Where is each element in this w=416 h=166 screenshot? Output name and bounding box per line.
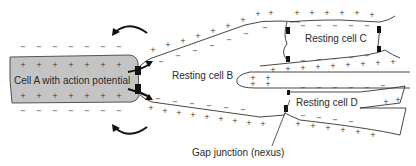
svg-text:−: − — [155, 95, 161, 103]
svg-text:−: − — [84, 107, 90, 115]
svg-text:+: + — [370, 131, 376, 139]
svg-text:−: − — [116, 43, 122, 51]
gap-junction-c-right-top — [377, 26, 381, 33]
svg-text:+: + — [310, 122, 316, 130]
svg-text:−: − — [348, 118, 354, 126]
svg-text:+: + — [52, 92, 58, 100]
svg-text:+: + — [369, 11, 375, 19]
svg-text:−: − — [52, 107, 58, 115]
gap-junction-leader-line — [272, 100, 290, 146]
svg-text:+: + — [270, 66, 276, 74]
svg-text:−: − — [364, 22, 370, 30]
svg-text:−: − — [116, 107, 122, 115]
svg-text:−: − — [243, 30, 249, 38]
svg-text:−: − — [316, 84, 322, 92]
svg-text:+: + — [68, 92, 74, 100]
gap-junction-c-right-bottom — [377, 46, 381, 52]
svg-text:+: + — [390, 58, 396, 66]
gap-junction-b-c-bottom — [286, 56, 290, 62]
svg-text:−: − — [380, 82, 386, 90]
svg-text:−: − — [158, 58, 164, 66]
gap-junction-d-top — [287, 90, 290, 95]
svg-text:−: − — [100, 107, 106, 115]
svg-text:+: + — [354, 9, 360, 17]
svg-text:+: + — [295, 120, 301, 128]
svg-text:−: − — [332, 84, 338, 92]
svg-text:−: − — [20, 43, 26, 51]
svg-text:−: − — [226, 36, 232, 44]
svg-text:−: − — [316, 22, 322, 30]
cell-d-charges: −−−−−− −−−− ++++++ ++ — [295, 82, 401, 139]
svg-text:+: + — [180, 37, 186, 45]
svg-text:+: + — [340, 126, 346, 134]
svg-text:−: − — [68, 43, 74, 51]
svg-text:−: − — [300, 22, 306, 30]
svg-text:+: + — [204, 113, 210, 121]
svg-text:+: + — [250, 80, 256, 88]
svg-text:−: − — [332, 22, 338, 30]
svg-text:+: + — [315, 63, 321, 71]
svg-text:+: + — [240, 16, 246, 24]
svg-text:−: − — [209, 42, 215, 50]
svg-text:−: − — [300, 84, 306, 92]
svg-text:+: + — [84, 61, 90, 69]
svg-text:−: − — [364, 52, 370, 60]
svg-text:+: + — [395, 96, 401, 104]
svg-text:−: − — [68, 107, 74, 115]
svg-text:−: − — [175, 52, 181, 60]
gap-junction-label: Gap junction (nexus) — [192, 147, 284, 158]
svg-text:+: + — [36, 92, 42, 100]
svg-text:+: + — [325, 124, 331, 132]
svg-text:+: + — [100, 61, 106, 69]
svg-text:−: − — [84, 43, 90, 51]
svg-text:+: + — [150, 46, 156, 54]
svg-text:−: − — [206, 102, 212, 110]
svg-text:−: − — [189, 100, 195, 108]
cell-d-label: Resting cell D — [296, 97, 358, 108]
gap-junction-b-c-top — [286, 27, 290, 34]
svg-text:−: − — [240, 106, 246, 114]
svg-text:−: − — [300, 112, 306, 120]
svg-text:+: + — [330, 62, 336, 70]
svg-text:+: + — [162, 107, 168, 115]
svg-text:+: + — [375, 59, 381, 67]
svg-text:−: − — [223, 104, 229, 112]
svg-text:−: − — [36, 107, 42, 115]
svg-text:−: − — [348, 84, 354, 92]
svg-text:+: + — [210, 27, 216, 35]
svg-text:+: + — [285, 65, 291, 73]
svg-text:+: + — [225, 22, 231, 30]
svg-text:+: + — [355, 128, 361, 136]
svg-text:−: − — [348, 22, 354, 30]
svg-text:+: + — [165, 41, 171, 49]
svg-text:+: + — [255, 10, 261, 18]
svg-text:−: − — [52, 43, 58, 51]
svg-text:+: + — [176, 109, 182, 117]
svg-text:+: + — [232, 117, 238, 125]
cardiac-gap-junction-diagram: −−−−−−− +++++++ +++++++ −−−−−−− ++++++++… — [0, 0, 416, 166]
svg-text:+: + — [260, 120, 266, 128]
svg-text:+: + — [360, 60, 366, 68]
svg-text:+: + — [100, 92, 106, 100]
svg-text:−: − — [100, 43, 106, 51]
svg-text:+: + — [309, 9, 315, 17]
svg-text:+: + — [20, 61, 26, 69]
cell-c-label: Resting cell C — [305, 33, 367, 44]
svg-text:+: + — [383, 98, 389, 106]
cell-b-membrane — [140, 21, 300, 66]
svg-text:−: − — [172, 98, 178, 106]
svg-text:+: + — [148, 104, 154, 112]
svg-text:+: + — [68, 61, 74, 69]
svg-text:+: + — [20, 92, 26, 100]
svg-text:−: − — [332, 116, 338, 124]
svg-text:−: − — [262, 24, 268, 32]
svg-text:+: + — [265, 80, 271, 88]
svg-text:−: − — [316, 114, 322, 122]
svg-text:+: + — [84, 92, 90, 100]
svg-text:−: − — [20, 107, 26, 115]
svg-text:+: + — [195, 32, 201, 40]
svg-text:+: + — [294, 9, 300, 17]
svg-text:−: − — [364, 84, 370, 92]
svg-text:+: + — [218, 115, 224, 123]
svg-text:+: + — [300, 64, 306, 72]
